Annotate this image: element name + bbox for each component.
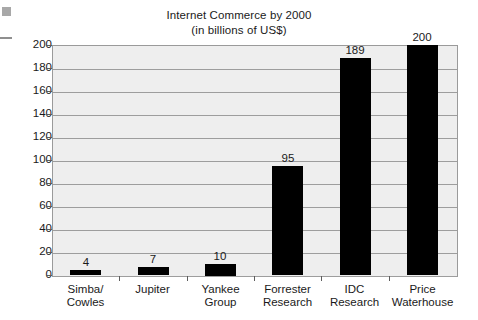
bar — [272, 166, 303, 275]
gridline — [53, 92, 457, 93]
bar — [205, 264, 236, 276]
bar-value-label: 4 — [56, 256, 116, 268]
gridline — [53, 230, 457, 231]
bar — [407, 45, 438, 275]
x-axis-category-label: Jupiter — [119, 283, 186, 296]
gridline — [53, 69, 457, 70]
gridline — [53, 276, 457, 277]
bar-value-label: 10 — [190, 250, 250, 262]
x-axis-category-label: IDC Research — [321, 283, 388, 309]
x-axis-category-label: Price Waterhouse — [389, 283, 456, 309]
y-axis: 020406080100120140160180200 — [0, 45, 52, 276]
gridline — [53, 207, 457, 208]
gridline — [53, 138, 457, 139]
gridline — [53, 115, 457, 116]
gridline — [53, 253, 457, 254]
bar-value-label: 189 — [325, 44, 385, 56]
x-axis-category-label: Forrester Research — [254, 283, 321, 309]
x-axis-category-label: Simba/ Cowles — [52, 283, 119, 309]
x-axis-tick-mark — [187, 276, 188, 281]
x-axis-tick-mark — [254, 276, 255, 281]
x-axis-category-label: Yankee Group — [187, 283, 254, 309]
gridline — [53, 161, 457, 162]
gridline — [53, 184, 457, 185]
chart-title: Internet Commerce by 2000 — [0, 8, 478, 23]
bar — [340, 58, 371, 275]
bar — [70, 270, 101, 275]
bar-value-label: 95 — [258, 152, 318, 164]
bar-value-label: 200 — [392, 31, 452, 43]
x-axis-tick-mark — [119, 276, 120, 281]
chart-figure: Internet Commerce by 2000 (in billions o… — [0, 0, 478, 320]
plot-area — [52, 45, 458, 277]
x-axis-tick-mark — [321, 276, 322, 281]
bar — [138, 267, 169, 275]
bar-value-label: 7 — [123, 253, 183, 265]
x-axis-tick-mark — [389, 276, 390, 281]
